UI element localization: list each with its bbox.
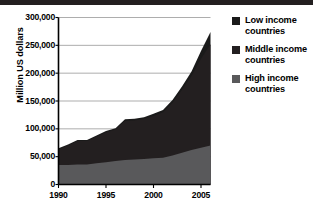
legend-label-line1: Middle income <box>245 44 313 55</box>
legend-label-line1: High income <box>245 73 313 84</box>
legend-swatch-middle-income <box>232 46 240 54</box>
chart-legend: Low incomecountriesMiddle incomecountrie… <box>232 15 313 102</box>
area-series-group <box>59 32 211 185</box>
legend-label-line2: countries <box>245 26 313 37</box>
y-tick-label: 150,000 <box>0 97 55 106</box>
legend-swatch-high-income <box>232 75 240 83</box>
x-tick-label: 1995 <box>86 190 126 200</box>
y-tick-label: 0 <box>0 180 55 189</box>
legend-label-line2: countries <box>245 84 313 95</box>
chart-figure: Million US dollars 050,000100,000150,000… <box>0 0 313 211</box>
legend-swatch-low-income <box>232 17 240 25</box>
y-tick-label: 300,000 <box>0 13 55 22</box>
y-tick-label: 100,000 <box>0 124 55 133</box>
legend-item[interactable]: Middle incomecountries <box>232 44 313 66</box>
x-tick-label: 1990 <box>39 190 79 200</box>
legend-item[interactable]: High incomecountries <box>232 73 313 95</box>
legend-label-line2: countries <box>245 55 313 66</box>
y-tick-label: 250,000 <box>0 41 55 50</box>
legend-label-line1: Low income <box>245 15 313 26</box>
x-tick-label: 2000 <box>134 190 174 200</box>
x-tick-label: 2005 <box>181 190 221 200</box>
y-tick-label: 200,000 <box>0 69 55 78</box>
legend-item[interactable]: Low incomecountries <box>232 15 313 37</box>
y-tick-label: 50,000 <box>0 152 55 161</box>
